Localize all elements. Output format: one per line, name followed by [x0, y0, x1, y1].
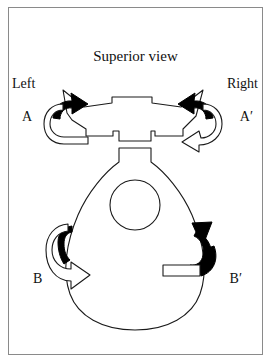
orientation-label-right: Right: [227, 77, 258, 91]
axis-label-b-prime: B′: [230, 272, 242, 286]
axis-label-b: B: [33, 272, 42, 286]
rotation-arrow-b-prime-open-tail: [163, 265, 200, 276]
central-foramen-circle: [110, 180, 160, 230]
figure-container: Superior view Left Right A A′ B B′: [0, 0, 271, 364]
pear-shaped-body-outline: [66, 148, 204, 330]
figure-title: Superior view: [0, 49, 271, 64]
transverse-winged-body-outline: [63, 90, 203, 141]
axis-label-a: A: [22, 110, 32, 124]
orientation-label-left: Left: [12, 77, 35, 91]
axis-label-a-prime: A′: [240, 110, 253, 124]
